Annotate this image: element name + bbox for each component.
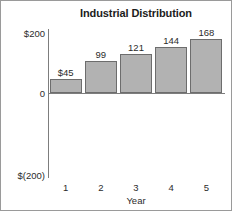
x-tick-label-1: 1	[50, 183, 82, 193]
y-tick-label-200: $200	[24, 29, 45, 39]
bar-value-label: 144	[163, 36, 179, 46]
bar-rect	[190, 39, 222, 93]
bar-value-label: 121	[128, 43, 144, 53]
bar-2: 99	[85, 61, 117, 93]
bar-rect	[155, 47, 187, 93]
y-tick-label-neg200: $(200)	[18, 171, 45, 181]
bar-5: 168	[190, 39, 222, 93]
bar-3: 121	[120, 54, 152, 93]
y-tick-label-0: 0	[40, 89, 45, 99]
x-tick-label-5: 5	[190, 183, 222, 193]
x-axis-title: Year	[48, 196, 224, 206]
x-tick-label-3: 3	[120, 183, 152, 193]
plot-area: $4599121144168	[48, 29, 224, 177]
bar-1: $45	[50, 79, 82, 93]
bar-rect	[120, 54, 152, 93]
bar-rect	[85, 61, 117, 93]
x-tick-label-2: 2	[85, 183, 117, 193]
bar-series: $4599121144168	[48, 29, 224, 177]
chart-title: Industrial Distribution	[45, 7, 227, 19]
bar-rect	[50, 79, 82, 93]
bar-value-label: 99	[96, 50, 107, 60]
chart-figure: Industrial Distribution $200 0 $(200) Pr…	[0, 0, 232, 211]
x-tick-label-4: 4	[155, 183, 187, 193]
bar-value-label: $45	[58, 68, 74, 78]
bar-value-label: 168	[198, 28, 214, 38]
bar-4: 144	[155, 47, 187, 93]
